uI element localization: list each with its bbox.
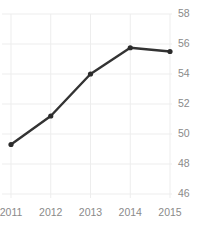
y-axis-tick-label: 58: [178, 7, 190, 19]
y-axis-tick-label: 50: [178, 127, 190, 139]
y-axis-tick-label: 48: [178, 157, 190, 169]
x-axis-tick-label: 2014: [119, 206, 142, 218]
data-point-marker: [128, 45, 133, 50]
line-chart: 58565452504846 20112012201320142015: [0, 0, 199, 225]
x-axis-tick-label: 2012: [39, 206, 62, 218]
y-axis-tick-label: 54: [178, 67, 190, 79]
y-axis-tick-label: 52: [178, 97, 190, 109]
chart-plot-area: [0, 0, 199, 225]
grid-lines-vertical: [11, 14, 170, 198]
x-axis-tick-label: 2011: [0, 206, 22, 218]
y-axis-tick-label: 56: [178, 37, 190, 49]
x-axis-tick-label: 2015: [158, 206, 181, 218]
grid-lines-horizontal: [2, 14, 172, 194]
data-point-marker: [8, 142, 13, 147]
x-axis-tick-label: 2013: [79, 206, 102, 218]
data-point-marker: [167, 49, 172, 54]
data-point-marker: [48, 113, 53, 118]
y-axis-tick-label: 46: [178, 187, 190, 199]
data-point-marker: [88, 71, 93, 76]
